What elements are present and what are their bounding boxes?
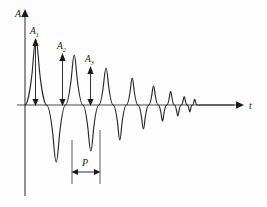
amplitude-label-3: A3	[84, 54, 94, 66]
amplitude-axis-arrowhead	[21, 9, 28, 17]
damped-oscillation-curve	[25, 40, 234, 162]
amplitude-arrow-up-1	[32, 38, 38, 46]
period-arrow-left-head	[72, 169, 79, 175]
amplitude-axis	[21, 9, 28, 196]
amplitude-indicator-3: A3	[84, 54, 94, 106]
amplitude-indicator-2: A2	[56, 41, 66, 106]
period-label: P	[81, 157, 88, 168]
period-indicator: P	[72, 130, 101, 184]
amplitude-label-1: A1	[29, 26, 39, 38]
amplitude-label-2: A2	[56, 41, 66, 53]
amplitude-axis-label: A	[14, 8, 22, 19]
damped-oscillation-figure: A1 A2 A3 P A t	[0, 0, 267, 207]
figure-canvas: A1 A2 A3 P A t	[0, 0, 267, 207]
amplitude-arrow-up-3	[87, 66, 93, 74]
time-axis-label: t	[249, 100, 252, 111]
period-arrow-right-head	[94, 169, 101, 175]
time-axis-arrowhead	[236, 101, 244, 109]
amplitude-arrow-up-2	[59, 53, 65, 61]
amplitude-indicator-1: A1	[29, 26, 39, 106]
